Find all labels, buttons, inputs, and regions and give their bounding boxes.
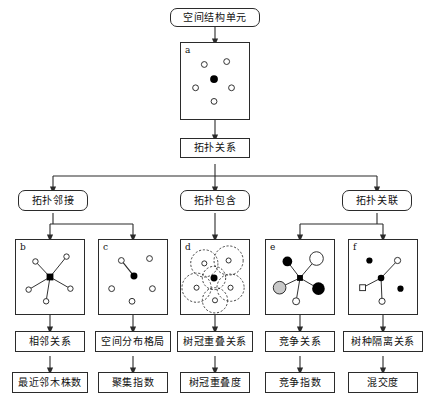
panel-e: e — [265, 239, 335, 315]
panel-f: f — [348, 239, 418, 315]
node-topological-adjacency[interactable]: 拓扑邻接 — [18, 190, 88, 211]
relation-adjacency-label: 相邻关系 — [29, 337, 71, 347]
relation-spatial-pattern[interactable]: 空间分布格局 — [95, 331, 171, 352]
index-crown-overlap-degree-label: 树冠重叠度 — [189, 378, 242, 388]
node-topological-containment-label: 拓扑包含 — [194, 196, 236, 206]
relation-crown-overlap[interactable]: 树冠重叠关系 — [177, 331, 253, 352]
index-crown-overlap-degree[interactable]: 树冠重叠度 — [180, 372, 250, 393]
panel-b: b — [15, 239, 85, 315]
panel-d-art — [181, 240, 249, 314]
topology-relation-label: 拓扑关系 — [194, 143, 236, 153]
relation-adjacency[interactable]: 相邻关系 — [15, 331, 85, 352]
relation-crown-overlap-label: 树冠重叠关系 — [183, 337, 247, 347]
index-competition-label: 竞争指数 — [279, 378, 321, 388]
panel-f-art — [349, 240, 417, 314]
root-node-label: 空间结构单元 — [183, 13, 247, 23]
relation-species-isolation[interactable]: 树种隔离关系 — [343, 331, 423, 352]
index-competition[interactable]: 竞争指数 — [265, 372, 335, 393]
panel-e-art — [266, 240, 334, 314]
index-aggregation-label: 聚集指数 — [112, 378, 154, 388]
index-nearest-neighbor-count[interactable]: 最近邻木株数 — [12, 372, 88, 393]
relation-spatial-pattern-label: 空间分布格局 — [101, 337, 165, 347]
index-mingling-label: 混交度 — [367, 378, 399, 388]
index-nearest-neighbor-count-label: 最近邻木株数 — [18, 378, 82, 388]
node-topological-association[interactable]: 拓扑关联 — [342, 190, 412, 211]
relation-competition-label: 竞争关系 — [279, 337, 321, 347]
diagram-canvas: 空间结构单元 a 拓扑关系 拓扑邻接 拓扑包含 拓扑关联 b — [0, 0, 430, 406]
root-node[interactable]: 空间结构单元 — [170, 8, 260, 27]
index-mingling[interactable]: 混交度 — [348, 372, 418, 393]
relation-species-isolation-label: 树种隔离关系 — [351, 337, 415, 347]
panel-b-art — [16, 240, 84, 314]
topology-relation-node[interactable]: 拓扑关系 — [180, 138, 250, 158]
panel-c: c — [98, 239, 168, 315]
panel-c-art — [99, 240, 167, 314]
node-topological-containment[interactable]: 拓扑包含 — [180, 190, 250, 211]
index-aggregation[interactable]: 聚集指数 — [98, 372, 168, 393]
panel-a-art — [181, 43, 249, 119]
panel-a: a — [180, 42, 250, 120]
node-topological-association-label: 拓扑关联 — [356, 196, 398, 206]
node-topological-adjacency-label: 拓扑邻接 — [32, 196, 74, 206]
panel-d: d — [180, 239, 250, 315]
relation-competition[interactable]: 竞争关系 — [265, 331, 335, 352]
